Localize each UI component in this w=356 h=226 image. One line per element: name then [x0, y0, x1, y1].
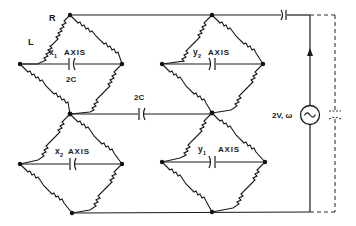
- label-x1-axis: AXIS: [64, 48, 86, 57]
- node-dot: [160, 160, 164, 164]
- label-source: 2V, ω: [272, 111, 292, 120]
- label-x1-sub: 1: [54, 53, 57, 59]
- resistor-arm: [20, 64, 70, 114]
- label-x2-axis: AXIS: [68, 147, 90, 156]
- stray-capacitor-icon: [329, 111, 341, 119]
- y2-axis-bridge: y 2 AXIS: [160, 13, 265, 113]
- interconnect-wiring: 2C 2V, ω: [70, 10, 341, 213]
- label-y2-axis: AXIS: [208, 48, 230, 57]
- label-y2-sub: 2: [198, 53, 201, 59]
- capacitor-icon: [209, 156, 215, 168]
- resistor-arm: [70, 114, 122, 164]
- resistor-arm: [162, 162, 212, 212]
- node-dot: [18, 62, 22, 66]
- node-dot: [210, 111, 215, 116]
- capacitor-icon: [70, 158, 76, 170]
- resistor-arm: [212, 113, 265, 162]
- bottom-rail-wire: [72, 212, 310, 213]
- label-L: L: [28, 37, 34, 47]
- capacitor-icon: [69, 58, 75, 70]
- label-y1-axis: AXIS: [218, 145, 240, 154]
- label-x1-cap: 2C: [66, 75, 76, 84]
- label-R: R: [49, 13, 56, 23]
- capacitor-icon: [281, 10, 286, 20]
- node-dot: [263, 160, 267, 164]
- capacitor-icon: [139, 108, 145, 120]
- resistor-arm: [70, 64, 122, 114]
- node-dot: [120, 162, 124, 166]
- x2-axis-bridge: x 2 AXIS: [18, 112, 124, 216]
- node-dot: [18, 162, 22, 166]
- label-mid-cap: 2C: [134, 93, 144, 102]
- current-arrow-icon: [307, 48, 313, 56]
- node-dot: [160, 62, 164, 66]
- x1-axis-bridge: R L x 1 AXIS 2C: [18, 13, 124, 114]
- resistor-arm: [162, 64, 212, 113]
- ac-source-icon: [301, 106, 320, 125]
- resistor-arm: [20, 164, 72, 213]
- capacitor-icon: [209, 58, 215, 70]
- label-y1-sub: 1: [203, 150, 206, 156]
- circuit-diagram: R L x 1 AXIS 2C y 2 AXIS: [0, 0, 356, 226]
- resistor-arm: [72, 164, 122, 213]
- resistor-arm: [212, 162, 265, 212]
- resistor-arm: [162, 15, 212, 64]
- node-dot: [261, 62, 265, 66]
- label-x2-sub: 2: [60, 152, 63, 158]
- y1-axis-bridge: y 1 AXIS: [160, 111, 267, 215]
- node-dot: [120, 62, 124, 66]
- resistor-arm: [212, 64, 263, 113]
